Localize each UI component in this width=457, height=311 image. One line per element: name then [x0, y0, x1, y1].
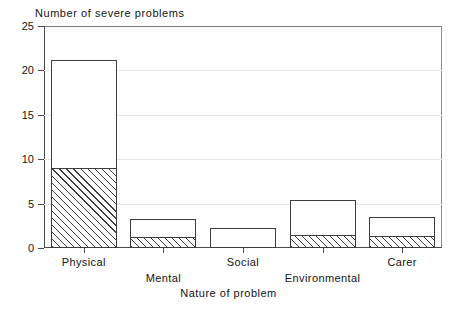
y-axis-tick — [38, 204, 44, 205]
x-axis-tick — [323, 248, 324, 253]
x-axis-label-physical: Physical — [62, 256, 106, 268]
y-axis-tick — [38, 248, 44, 249]
bar-segment-hatched — [51, 168, 117, 248]
y-axis-title: Number of severe problems — [35, 7, 184, 19]
y-axis-tick-label: 15 — [22, 109, 34, 120]
x-axis-tick — [163, 248, 164, 253]
y-axis-tick — [38, 70, 44, 71]
y-axis-tick-label: 20 — [22, 65, 34, 76]
x-axis-tick — [243, 248, 244, 253]
y-axis-tick — [38, 26, 44, 27]
bar-segment-hatched — [369, 236, 435, 248]
bar-physical — [51, 60, 117, 248]
bar-segment-open — [210, 228, 276, 248]
bar-segment-open — [51, 60, 117, 168]
plot-frame-top — [44, 26, 442, 27]
bar-segment-hatched — [130, 237, 196, 248]
x-axis-label-social: Social — [227, 256, 259, 268]
bar-segment-open — [369, 217, 435, 236]
value-axis-line — [44, 26, 45, 248]
x-axis-tick — [84, 248, 85, 253]
y-axis-tick-label: 25 — [22, 21, 34, 32]
bar-chart-figure: Number of severe problems 0510152025 Phy… — [0, 0, 457, 311]
y-axis-tick-label: 10 — [22, 154, 34, 165]
plot-area: 0510152025 — [44, 26, 442, 248]
plot-frame-right — [441, 26, 442, 248]
bar-social — [210, 228, 276, 248]
y-axis-tick-label: 0 — [28, 243, 34, 254]
y-axis-tick — [38, 159, 44, 160]
bar-carer — [369, 217, 435, 248]
x-axis-label-environmental: Environmental — [285, 272, 361, 284]
x-axis-tick — [402, 248, 403, 253]
bar-mental — [130, 219, 196, 248]
x-axis-label-mental: Mental — [146, 272, 181, 284]
y-axis-tick — [38, 115, 44, 116]
bar-segment-hatched — [290, 235, 356, 248]
x-axis-title: Nature of problem — [0, 287, 457, 299]
bar-segment-open — [130, 219, 196, 238]
bar-environmental — [290, 200, 356, 248]
y-axis-tick-label: 5 — [28, 198, 34, 209]
x-axis-label-carer: Carer — [387, 256, 417, 268]
bar-segment-open — [290, 200, 356, 235]
